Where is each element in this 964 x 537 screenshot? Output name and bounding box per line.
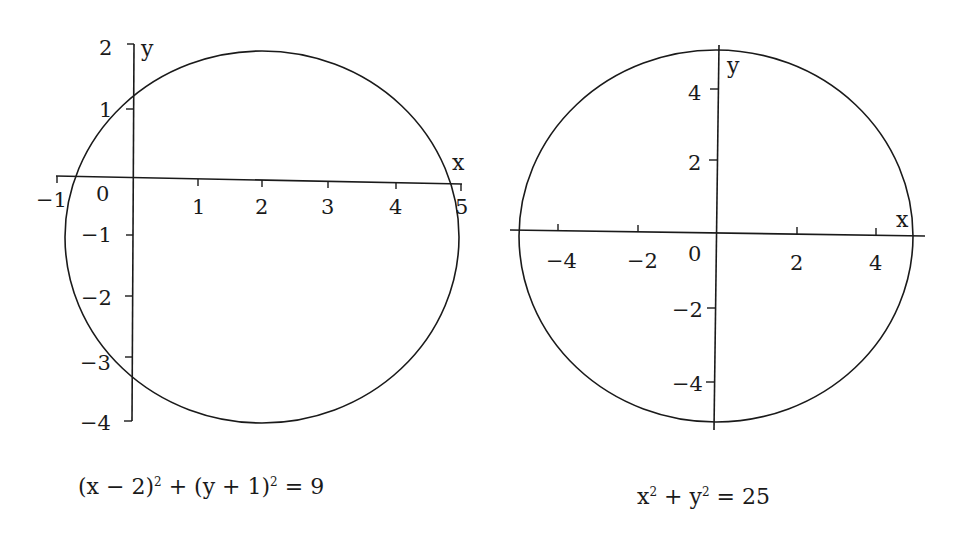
left-eq-part-1: (x − 2)	[78, 474, 154, 499]
left-ytick-label: −4	[80, 411, 111, 435]
left-eq-exp-2: 2	[270, 475, 278, 489]
left-eq-part-3: = 9	[278, 474, 324, 499]
right-eq-part-2: + y	[657, 484, 702, 509]
left-x-axis-label: x	[452, 150, 465, 175]
left-ytick-label: −2	[81, 286, 112, 310]
right-eq-part-3: = 25	[710, 484, 770, 509]
right-equation-caption: x2 + y2 = 25	[637, 484, 770, 509]
left-plot	[56, 44, 462, 423]
right-y-tick-labels: 4 2 −2 −4	[672, 81, 703, 396]
left-x-tick-labels: −1 0 1 2 3 4 5	[36, 182, 468, 219]
left-y-axis-label: y	[140, 36, 154, 61]
left-eq-exp-1: 2	[154, 475, 162, 489]
right-xtick-label: 2	[790, 251, 803, 275]
right-y-axis	[714, 45, 719, 430]
left-circle	[65, 51, 459, 423]
right-x-axis	[510, 230, 925, 236]
left-xtick-label: 2	[255, 195, 268, 219]
right-xtick-label: 0	[688, 242, 701, 266]
left-xtick-label: 1	[192, 195, 205, 219]
right-x-tick-labels: −4 −2 0 2 4	[546, 242, 882, 275]
right-eq-exp-2: 2	[702, 485, 710, 499]
right-plot	[510, 45, 925, 430]
right-xtick-label: 4	[869, 251, 882, 275]
left-y-tick-labels: 2 1 −1 −2 −3 −4	[80, 36, 112, 435]
right-ytick-label: 2	[688, 151, 701, 175]
right-x-axis-label: x	[896, 207, 909, 232]
left-xtick-label: 4	[389, 195, 402, 219]
right-ytick-label: −4	[672, 372, 703, 396]
left-ytick-label: 2	[99, 36, 112, 60]
left-xtick-label: 3	[321, 195, 334, 219]
right-xtick-label: −4	[546, 249, 577, 273]
left-xtick-label: −1	[36, 188, 67, 212]
right-xtick-label: −2	[627, 249, 658, 273]
left-equation-caption: (x − 2)2 + (y + 1)2 = 9	[78, 474, 324, 499]
left-ytick-label: −3	[80, 351, 111, 375]
right-ytick-label: 4	[688, 81, 701, 105]
left-ytick-label: −1	[81, 223, 112, 247]
figure-canvas: −1 0 1 2 3 4 5 2 1 −1 −2 −3 −4 y x	[0, 0, 964, 537]
right-y-axis-label: y	[726, 53, 740, 78]
right-ytick-label: −2	[672, 298, 703, 322]
left-y-axis	[132, 44, 134, 421]
left-ytick-label: 1	[99, 98, 112, 122]
left-x-axis	[56, 176, 462, 184]
left-xtick-label: 5	[455, 195, 468, 219]
left-xtick-label: 0	[96, 182, 109, 206]
left-eq-part-2: + (y + 1)	[162, 474, 270, 499]
right-eq-part-1: x	[637, 484, 649, 509]
right-eq-exp-1: 2	[649, 485, 657, 499]
